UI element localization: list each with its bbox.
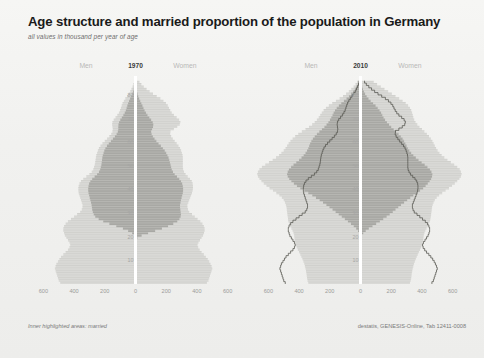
panel-header-2010: Men 2010 Women [253, 62, 468, 74]
x-tick-2010-0-3: 0 [359, 288, 362, 294]
x-axis-1970: 6004002000200400600 [28, 288, 243, 298]
x-tick-1970-600-0: 600 [39, 288, 48, 294]
x-axis-2010: 6004002000200400600 [253, 288, 468, 298]
year-label-2010: 2010 [353, 62, 368, 69]
women-label-1970: Women [173, 62, 196, 69]
legend-note: Inner highlighted areas: married [28, 323, 107, 329]
source-note: destatis, GENESIS-Online, Tab 12411-0008 [358, 323, 466, 329]
x-tick-2010-600-6: 600 [448, 288, 457, 294]
x-tick-1970-600-6: 600 [223, 288, 232, 294]
poster-page: Age structure and married proportion of … [0, 0, 484, 358]
chart-panel-1970: Men 1970 Women 1020304050607080 60040020… [28, 62, 243, 312]
x-tick-1970-200-4: 200 [162, 288, 171, 294]
x-tick-2010-400-5: 400 [417, 288, 426, 294]
x-tick-1970-200-2: 200 [100, 288, 109, 294]
x-tick-1970-400-5: 400 [192, 288, 201, 294]
year-label-1970: 1970 [128, 62, 143, 69]
page-title: Age structure and married proportion of … [28, 14, 440, 29]
x-tick-2010-200-4: 200 [387, 288, 396, 294]
2010-women-stripe-overlay [361, 81, 462, 284]
x-tick-1970-400-1: 400 [69, 288, 78, 294]
x-tick-2010-600-0: 600 [264, 288, 273, 294]
pyramid-plot-2010 [253, 76, 468, 284]
x-tick-2010-200-2: 200 [325, 288, 334, 294]
pyramid-plot-1970 [28, 76, 243, 284]
page-subtitle: all values in thousand per year of age [28, 33, 138, 40]
x-tick-1970-0-3: 0 [134, 288, 137, 294]
1970-men-stripe-overlay [55, 81, 136, 284]
1970-women-stripe-overlay [136, 81, 213, 284]
chart-panel-2010: Men 2010 Women 1020304050607080 60040020… [253, 62, 468, 312]
women-label-2010: Women [398, 62, 421, 69]
panel-header-1970: Men 1970 Women [28, 62, 243, 74]
men-label-1970: Men [79, 62, 92, 69]
men-label-2010: Men [304, 62, 317, 69]
x-tick-2010-400-1: 400 [294, 288, 303, 294]
